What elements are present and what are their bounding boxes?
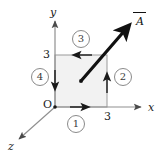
x-tick-3: 3 [104,111,111,122]
z-axis-label: z [8,141,14,152]
segment-marker-1[interactable]: 1 [67,115,85,133]
vector-a-label: A [136,15,144,28]
y-axis-label: y [50,7,56,18]
vector-a-overbar [133,12,146,13]
figure-canvas: x y z O 3 3 A 1 2 3 4 [0,0,164,157]
origin-dot [53,105,57,109]
segment-marker-2[interactable]: 2 [114,68,132,86]
origin-label: O [43,99,52,110]
segment-marker-3[interactable]: 3 [72,30,90,48]
segment-marker-4[interactable]: 4 [31,68,49,86]
y-tick-3: 3 [43,49,50,60]
z-axis [19,107,55,139]
vector-origin-dot [79,79,82,82]
x-axis-label: x [148,102,154,113]
